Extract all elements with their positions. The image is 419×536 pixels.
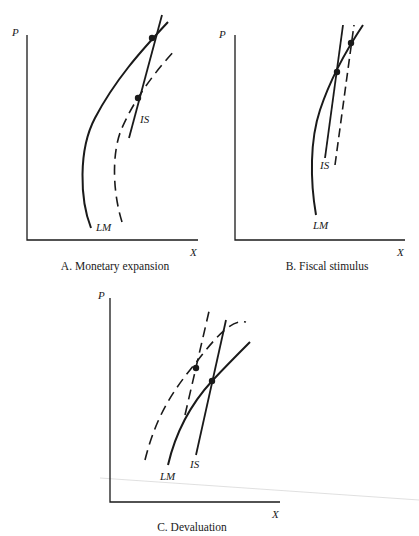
panel-a-equilibrium-new: [135, 95, 141, 101]
panel-c-axes: [110, 298, 280, 502]
panel-c-is-label: IS: [190, 459, 199, 470]
panel-a-x-axis-label: X: [190, 247, 197, 258]
panel-c-is-curve: [196, 320, 226, 455]
panel-a-y-axis-label: P: [12, 27, 19, 38]
panel-b-graph: [235, 25, 405, 240]
panel-b-lm-curve: [312, 25, 363, 215]
panel-c-equilibrium-initial: [209, 378, 215, 384]
panel-c-equilibrium-new: [193, 365, 199, 371]
panel-a-graph: [27, 15, 198, 240]
panel-b-equilibrium-initial: [334, 69, 340, 75]
panel-a-caption: A. Monetary expansion: [61, 261, 169, 273]
panel-a-axes: [27, 35, 198, 240]
panel-c-x-axis-label: X: [272, 509, 279, 520]
panel-b-is-label: IS: [320, 160, 329, 171]
panel-c-lm-curve: [168, 342, 250, 465]
panel-b-equilibrium-new: [348, 40, 354, 46]
panel-a-lm-label: LM: [96, 222, 111, 233]
panel-c-y-axis-label: P: [98, 290, 105, 301]
panel-a-is-label: IS: [140, 114, 149, 125]
scan-artifact-line: [100, 478, 419, 500]
panel-b-x-axis-label: X: [397, 247, 404, 258]
panel-a-lm-curve: [82, 22, 168, 228]
panel-b-y-axis-label: P: [219, 29, 226, 40]
panel-b-axes: [235, 35, 405, 240]
panel-a-lm-shifted-curve: [115, 50, 176, 222]
panel-b-caption: B. Fiscal stimulus: [286, 261, 369, 273]
panel-c-lm-label: LM: [160, 471, 175, 482]
panel-c-graph: [110, 298, 280, 502]
panel-a-equilibrium-initial: [149, 35, 155, 41]
panel-c-lm-shifted-curve: [145, 322, 246, 460]
panel-b-lm-label: LM: [313, 220, 328, 231]
panel-c-caption: C. Devaluation: [157, 522, 227, 534]
